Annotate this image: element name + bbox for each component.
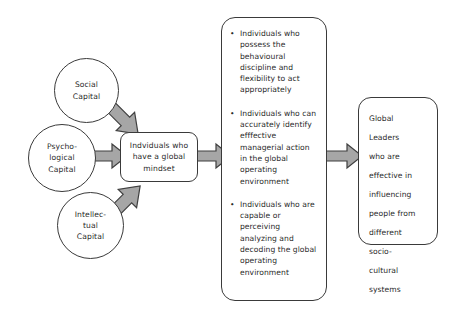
bullet-icon: •: [230, 108, 235, 119]
bullet-icon: •: [230, 199, 235, 210]
node-global-mindset-label: Indviduals who have a global mindset: [130, 140, 188, 174]
list-item-text: Individuals who can accurately identify …: [240, 109, 316, 186]
node-psychological-capital: Psycho- logical Capital: [28, 124, 96, 192]
list-item: • Individuals who are capable or perceiv…: [229, 199, 319, 278]
node-global-mindset: Indviduals who have a global mindset: [120, 132, 198, 182]
outcomes-list: • Individuals who possess the behavioura…: [229, 28, 319, 278]
diagram-canvas: Social Capital Psycho- logical Capital I…: [0, 0, 453, 318]
node-intellectual-capital: Intellec- tual Capital: [57, 192, 124, 259]
node-social-capital-label: Social Capital: [73, 79, 100, 101]
list-item: • Individuals who possess the behavioura…: [229, 28, 319, 96]
node-global-leaders: Global Leaders who are effective in infl…: [358, 97, 438, 245]
node-individual-outcomes: • Individuals who possess the behavioura…: [221, 17, 327, 301]
list-item-text: Individuals who possess the behavioural …: [240, 29, 300, 94]
node-global-leaders-label: Global Leaders who are effective in infl…: [369, 114, 415, 294]
bullet-icon: •: [230, 28, 235, 39]
node-social-capital: Social Capital: [54, 58, 119, 123]
node-psychological-capital-label: Psycho- logical Capital: [47, 141, 77, 175]
node-intellectual-capital-label: Intellec- tual Capital: [75, 209, 106, 243]
list-item: • Individuals who can accurately identif…: [229, 108, 319, 187]
list-item-text: Individuals who are capable or perceivin…: [240, 200, 316, 277]
